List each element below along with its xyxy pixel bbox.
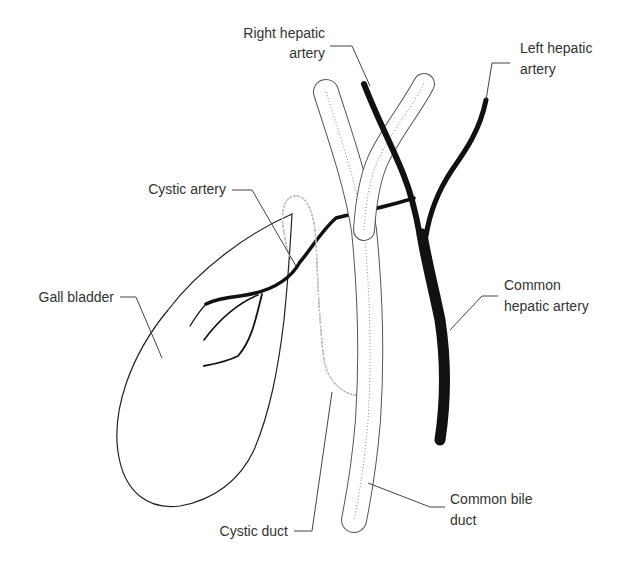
svg-text:Cystic artery: Cystic artery (148, 181, 226, 197)
svg-text:duct: duct (450, 512, 477, 528)
svg-text:artery: artery (289, 45, 325, 61)
biliary-anatomy-diagram: Right hepatic artery Left hepatic artery… (0, 0, 629, 564)
svg-text:hepatic artery: hepatic artery (504, 298, 589, 314)
label-cystic-duct: Cystic duct (220, 523, 289, 539)
label-gall-bladder: Gall bladder (39, 289, 115, 305)
svg-text:artery: artery (520, 61, 556, 77)
svg-text:Right hepatic: Right hepatic (243, 25, 325, 41)
svg-text:Common bile: Common bile (450, 491, 533, 507)
svg-text:Left hepatic: Left hepatic (520, 40, 592, 56)
svg-text:Cystic duct: Cystic duct (220, 523, 289, 539)
svg-text:Gall bladder: Gall bladder (39, 289, 115, 305)
svg-text:Common: Common (504, 277, 561, 293)
label-cystic-artery: Cystic artery (148, 181, 226, 197)
